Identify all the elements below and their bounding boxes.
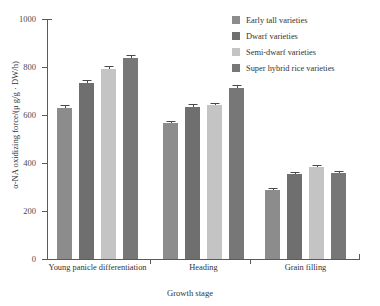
- error-bar-cap: [334, 171, 343, 172]
- x-group-label: Grain filling: [226, 263, 380, 273]
- bar-fill: [331, 173, 346, 259]
- bar: [265, 190, 280, 259]
- bar-fill: [229, 88, 244, 259]
- bar-fill: [309, 167, 324, 259]
- error-bar-cap: [188, 104, 197, 105]
- legend-label: Semi-dwarf varieties: [246, 48, 316, 57]
- y-tick-label: 400: [0, 159, 36, 167]
- bar: [287, 174, 302, 259]
- bar-fill: [163, 123, 178, 259]
- bar-fill: [79, 83, 94, 259]
- error-bar-cap: [232, 85, 241, 86]
- bar-fill: [123, 58, 138, 259]
- bar: [309, 167, 324, 259]
- bar: [57, 108, 72, 259]
- bar: [229, 88, 244, 259]
- legend-label: Super hybrid rice varieties: [246, 64, 335, 73]
- bar-fill: [287, 174, 302, 259]
- y-tick-label: 1000: [0, 15, 36, 23]
- legend: Early tall varietiesDwarf varietiesSemi-…: [232, 12, 335, 76]
- legend-label: Dwarf varieties: [246, 32, 298, 41]
- error-bar-cap: [60, 105, 69, 106]
- x-axis-title: Growth stage: [0, 288, 380, 298]
- bar: [185, 107, 200, 259]
- bar: [123, 58, 138, 259]
- bar-fill: [57, 108, 72, 259]
- error-bar-cap: [312, 165, 321, 166]
- legend-swatch-icon: [232, 16, 240, 24]
- legend-swatch-icon: [232, 64, 240, 72]
- legend-item: Early tall varieties: [232, 12, 335, 28]
- y-tick-label: 800: [0, 63, 36, 71]
- legend-item: Super hybrid rice varieties: [232, 60, 335, 76]
- legend-swatch-icon: [232, 32, 240, 40]
- error-bar-cap: [166, 121, 175, 122]
- error-bar-cap: [268, 188, 277, 189]
- error-bar-cap: [210, 103, 219, 104]
- legend-swatch-icon: [232, 48, 240, 56]
- bar: [207, 105, 222, 259]
- y-tick-label: 600: [0, 111, 36, 119]
- error-bar-cap: [82, 80, 91, 81]
- bar-fill: [101, 69, 116, 259]
- x-axis-line: [47, 259, 360, 260]
- legend-label: Early tall varieties: [246, 16, 307, 25]
- y-tick-label: 0: [0, 255, 36, 263]
- legend-item: Semi-dwarf varieties: [232, 44, 335, 60]
- y-tick-label: 200: [0, 207, 36, 215]
- y-tick-mark: [42, 259, 47, 260]
- legend-item: Dwarf varieties: [232, 28, 335, 44]
- bar-fill: [265, 190, 280, 259]
- error-bar-cap: [290, 172, 299, 173]
- error-bar-cap: [126, 55, 135, 56]
- bar: [101, 69, 116, 259]
- bar-chart: α-NA oxidizing force/(μ g/g · DW/h) 0200…: [0, 0, 380, 306]
- bar: [79, 83, 94, 259]
- bar: [163, 123, 178, 259]
- bar: [331, 173, 346, 259]
- error-bar-cap: [104, 66, 113, 67]
- bar-fill: [185, 107, 200, 259]
- bar-fill: [207, 105, 222, 259]
